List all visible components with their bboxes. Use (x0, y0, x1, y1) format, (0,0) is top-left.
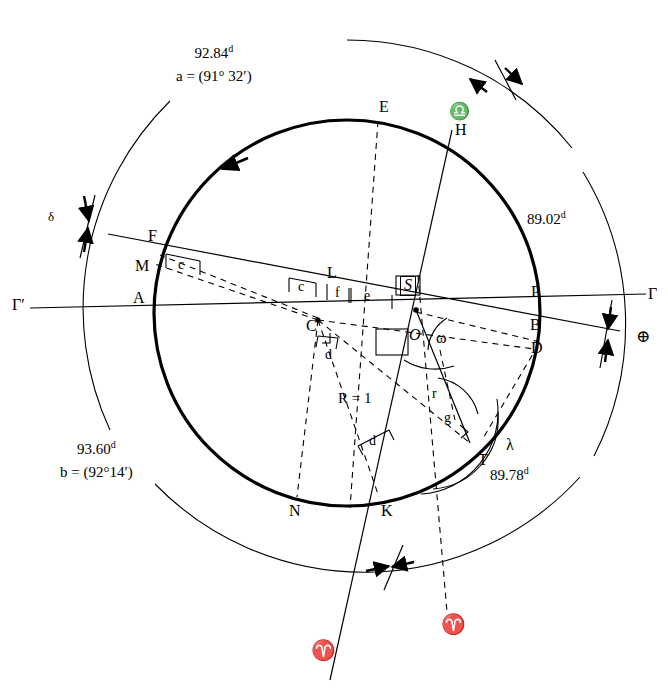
line-E-K-dashed (350, 121, 378, 508)
arc-value-unit: d (111, 439, 116, 450)
point-label-N: N (289, 503, 301, 520)
segment-bracket-d-lower (358, 430, 394, 455)
outer-arc-right (583, 172, 626, 456)
point-label-T: T (478, 452, 488, 469)
point-label-L: L (327, 265, 337, 282)
aries-symbol-right: ♈ (441, 614, 466, 635)
segment-label-d-upper: d (325, 348, 332, 363)
arc-value-number: 93.60 (77, 441, 111, 457)
segment-bracket-e (351, 288, 392, 309)
projection-dashed-rect (416, 312, 540, 440)
main-circle (154, 120, 540, 506)
arc-marker-right (600, 300, 612, 368)
segment-label-c-lower: c (298, 280, 304, 295)
point-label-A: A (133, 290, 145, 307)
point-label-H: H (455, 122, 467, 139)
label-delta: δ (48, 210, 54, 224)
point-label-K: K (381, 503, 393, 520)
line-C-N-dashed (297, 320, 318, 497)
point-label-P: P (531, 284, 540, 301)
arc-value-unit: d (228, 43, 233, 54)
libra-symbol: ♎ (449, 103, 470, 121)
point-label-C: C (306, 318, 317, 335)
arc-annotation-bottom-left: 93.60d b = (92°14′) (60, 440, 133, 481)
geometry-svg (0, 0, 668, 698)
segment-label-g: g (444, 411, 451, 426)
segment-label-f: f (335, 286, 340, 301)
arc-annotation-bottom-right: 89.78d (490, 466, 529, 484)
arc-value-unit: d (561, 209, 566, 220)
arc-value-top-left: 92.84d (176, 44, 252, 62)
outer-arc-left (83, 101, 170, 430)
arc-value-number: 89.78 (490, 467, 524, 483)
label-omega: ω (436, 330, 447, 347)
outer-arc-bottom (155, 477, 580, 572)
point-label-M: M (135, 258, 149, 275)
arc-marker-left (80, 195, 95, 258)
arc-value-unit: d (524, 465, 529, 476)
point-label-O: O (409, 327, 421, 344)
point-label-B: B (530, 317, 541, 334)
arc-equation-bottom-left: b = (92°14′) (60, 465, 133, 481)
angle-arc-O (404, 360, 454, 369)
segment-label-d-lower: d (369, 434, 376, 449)
arc-value-number: 89.02 (527, 211, 561, 227)
diagram-canvas: 92.84d a = (91° 32′) 93.60d b = (92°14′)… (0, 0, 668, 698)
arc-equation-top-left: a = (91° 32′) (176, 69, 252, 85)
arc-marker-bottom (366, 545, 414, 590)
point-label-S: S (400, 276, 416, 296)
vertex-dots (315, 307, 418, 322)
earth-symbol: ⊕ (636, 328, 650, 346)
segment-label-c-upper: c (178, 258, 184, 273)
angle-arc-g (438, 378, 478, 414)
point-label-D: D (531, 340, 543, 357)
radius-label: R = 1 (338, 391, 371, 407)
aries-symbol-left: ♈ (311, 640, 336, 661)
point-label-E: E (379, 99, 389, 116)
arc-value-bottom-left: 93.60d (60, 440, 133, 458)
line-C-M-dashed (152, 263, 318, 320)
label-gamma-right: Γ (648, 286, 657, 303)
line-F-P (108, 234, 620, 331)
arc-marker-top-right (470, 60, 522, 100)
arc-annotation-top-right: 89.02d (527, 210, 566, 228)
segment-label-e: e (364, 289, 370, 304)
label-lambda: λ (506, 437, 514, 454)
arc-annotation-top-left: 92.84d a = (91° 32′) (176, 44, 252, 85)
point-label-F: F (148, 228, 157, 245)
label-gamma-prime-left: Γ′ (12, 297, 25, 314)
segment-label-r: r (432, 387, 437, 402)
arc-value-number: 92.84 (194, 45, 228, 61)
